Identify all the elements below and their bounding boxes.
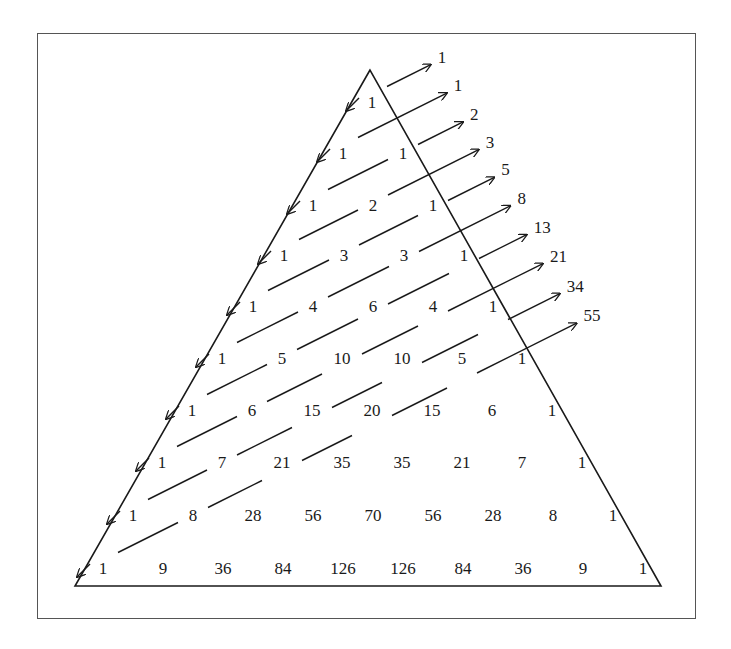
diagonal-segment — [359, 216, 418, 246]
pascal-entry: 3 — [400, 246, 409, 265]
pascal-entry: 28 — [245, 506, 262, 525]
pascal-entry: 1 — [639, 559, 648, 578]
fibonacci-sum: 55 — [584, 306, 601, 325]
pascal-entry: 3 — [340, 246, 349, 265]
diagonal-segment — [388, 274, 449, 305]
fibonacci-sum: 8 — [517, 189, 526, 208]
pascal-entry: 1 — [309, 196, 318, 215]
diagonal-segment — [479, 235, 527, 259]
diagonal-segment — [448, 177, 494, 200]
pascal-entry: 7 — [218, 453, 227, 472]
diagonal-segment — [207, 365, 267, 395]
left-arrow-icon — [227, 302, 240, 315]
diagonal-segment — [268, 260, 329, 291]
pascal-entry: 56 — [305, 506, 322, 525]
pascal-entry: 36 — [515, 559, 532, 578]
left-arrow-icon — [77, 564, 90, 577]
pascal-entry: 2 — [369, 196, 378, 215]
diagonal-segment — [422, 335, 478, 363]
pascal-entry: 8 — [549, 506, 558, 525]
pascal-entry: 6 — [369, 297, 378, 316]
pascal-entry: 1 — [489, 297, 498, 316]
pascal-entry: 1 — [188, 401, 197, 420]
pascal-entry: 126 — [330, 559, 356, 578]
fibonacci-sum: 5 — [501, 160, 510, 179]
diagonal-segment — [297, 319, 358, 350]
fibonacci-sum: 34 — [567, 277, 585, 296]
pascal-entry: 4 — [309, 297, 318, 316]
diagonal-segment — [118, 523, 178, 553]
pascal-numbers: 1111211331146411510105116152015611721353… — [99, 93, 648, 578]
diagonal-segment — [477, 323, 577, 373]
pascal-entry: 20 — [364, 401, 381, 420]
pascal-entry: 1 — [548, 401, 557, 420]
diagonal-segment — [177, 417, 237, 447]
diagonal-lines — [77, 65, 577, 577]
fibonacci-sums: 11235813213455 — [438, 48, 601, 326]
pascal-entry: 1 — [399, 144, 408, 163]
pascal-entry: 8 — [189, 506, 198, 525]
fibonacci-sum: 13 — [534, 218, 551, 237]
pascal-entry: 4 — [429, 297, 438, 316]
pascal-entry: 84 — [275, 559, 293, 578]
pascal-entry: 5 — [278, 349, 287, 368]
pascal-entry: 1 — [218, 349, 227, 368]
fibonacci-sum: 2 — [470, 105, 479, 124]
pascal-entry: 1 — [609, 506, 618, 525]
diagonal-segment — [208, 481, 262, 508]
pascal-entry: 36 — [215, 559, 232, 578]
pascal-entry: 1 — [578, 453, 587, 472]
pascal-entry: 9 — [579, 559, 588, 578]
pascal-entry: 1 — [280, 246, 289, 265]
diagonal-segment — [387, 65, 431, 87]
pascal-entry: 10 — [394, 349, 411, 368]
fibonacci-sum: 1 — [454, 76, 463, 95]
pascal-entry: 35 — [334, 453, 351, 472]
pascal-entry: 21 — [274, 453, 291, 472]
pascal-entry: 21 — [454, 453, 471, 472]
pascal-entry: 1 — [460, 246, 469, 265]
pascal-entry: 5 — [458, 349, 467, 368]
fibonacci-sum: 21 — [550, 247, 567, 266]
pascal-entry: 6 — [488, 401, 497, 420]
pascal-entry: 10 — [334, 349, 351, 368]
diagonal-segment — [328, 160, 388, 190]
pascal-fibonacci-diagram: 1111211331146411510105116152015611721353… — [0, 0, 731, 649]
diagonal-segment — [328, 267, 389, 298]
pascal-entry: 1 — [158, 453, 167, 472]
pascal-entry: 35 — [394, 453, 411, 472]
left-arrow-icon — [196, 354, 209, 367]
diagonal-segment — [418, 122, 463, 145]
pascal-entry: 6 — [248, 401, 257, 420]
pascal-entry: 1 — [129, 506, 138, 525]
pascal-entry: 9 — [159, 559, 168, 578]
diagonal-segment — [148, 470, 207, 500]
fibonacci-sum: 1 — [438, 48, 447, 67]
pascal-entry: 56 — [425, 506, 442, 525]
pascal-entry: 15 — [424, 401, 441, 420]
pascal-entry: 1 — [429, 196, 438, 215]
pascal-entry: 28 — [485, 506, 502, 525]
diagonal-segment — [237, 428, 292, 456]
pascal-entry: 15 — [304, 401, 321, 420]
diagonal-segment — [267, 374, 322, 402]
pascal-entry: 84 — [455, 559, 473, 578]
pascal-entry: 1 — [518, 349, 527, 368]
fibonacci-sum: 3 — [486, 133, 495, 152]
pascal-entry: 70 — [365, 506, 382, 525]
pascal-entry: 1 — [249, 297, 258, 316]
pascal-entry: 7 — [518, 453, 527, 472]
pascal-entry: 1 — [339, 144, 348, 163]
pascal-entry: 1 — [368, 93, 377, 112]
diagonal-segment — [508, 294, 560, 320]
pascal-entry: 126 — [390, 559, 416, 578]
left-arrow-icon — [107, 511, 120, 524]
diagonal-segment — [237, 312, 298, 343]
pascal-entry: 1 — [99, 559, 108, 578]
